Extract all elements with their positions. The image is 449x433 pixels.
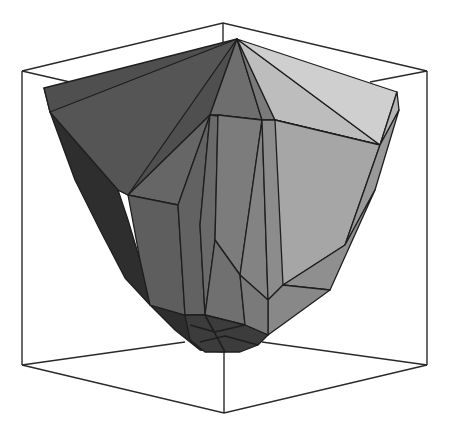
box-top-right-front-edge-stub (370, 71, 427, 82)
polyhedron-surface (44, 39, 399, 352)
figure-canvas (0, 0, 449, 433)
box-bottom-back-right-edge (262, 342, 427, 365)
polyhedron-figure (0, 0, 449, 433)
face-right-bottom (268, 285, 330, 335)
box-bottom-back-left-edge (22, 342, 185, 365)
box-top-left-front-edge-stub (22, 71, 70, 82)
